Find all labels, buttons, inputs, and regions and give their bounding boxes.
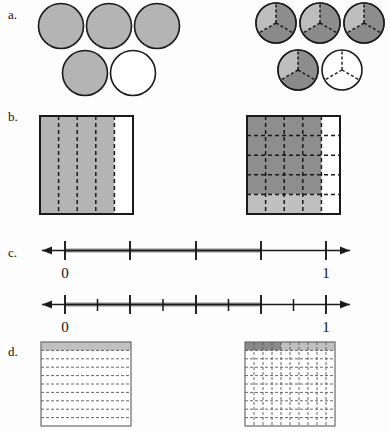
circle-thirds-shaded-4 [278, 50, 318, 90]
row-a-circles [0, 0, 390, 102]
circle-thirds-empty-5 [322, 50, 362, 90]
fifths-one-label: 1 [322, 265, 330, 281]
circle-empty-5 [111, 51, 156, 96]
row-c-number-lines: 0 1 0 1 [0, 232, 390, 340]
circle-shaded-3 [135, 4, 180, 49]
circles-right-group [256, 3, 384, 90]
square-left-fifths [40, 116, 133, 214]
grid-left-tenths [41, 342, 131, 426]
circle-shaded-2 [87, 4, 132, 49]
circle-thirds-shaded-3 [344, 3, 384, 43]
circle-shaded-4 [63, 51, 108, 96]
number-line-fifths: 0 1 [42, 241, 350, 281]
tenths-zero-label: 0 [61, 319, 69, 335]
row-b-squares [0, 108, 390, 226]
number-line-tenths: 0 1 [42, 295, 350, 335]
tenths-one-label: 1 [322, 319, 330, 335]
fraction-representations-figure: a. b. c. d. [0, 0, 390, 431]
circle-thirds-shaded-2 [300, 3, 340, 43]
circle-shaded-1 [39, 4, 84, 49]
circle-thirds-shaded-1 [256, 3, 296, 43]
circles-left-group [39, 4, 180, 96]
row-d-grids [0, 338, 390, 431]
fifths-zero-label: 0 [61, 265, 69, 281]
grid-right-hundredths [245, 342, 335, 426]
square-right-twentyfifths [247, 116, 340, 214]
